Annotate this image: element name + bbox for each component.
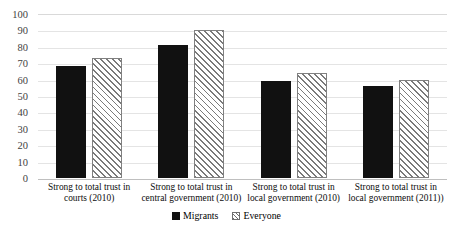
x-axis-category-label: Strong to total trust inlocal government…: [345, 182, 447, 204]
y-axis-tick-label: 50: [0, 92, 28, 102]
x-axis-label-line: Strong to total trust in: [39, 182, 139, 193]
x-axis-category-label: Strong to total trust incourts (2010): [38, 182, 140, 204]
y-axis-tick-label: 70: [0, 59, 28, 69]
bar-everyone: [92, 58, 122, 178]
legend-entry: Everyone: [232, 211, 281, 221]
bar-migrants: [261, 81, 291, 178]
bar-group: [243, 14, 345, 178]
y-axis-tick-label: 90: [0, 26, 28, 36]
legend-entry: Migrants: [172, 211, 218, 221]
x-axis-label-line: local government (2011)): [346, 193, 446, 204]
x-axis-label-line: Strong to total trust in: [346, 182, 446, 193]
x-axis-label-line: Strong to total trust in: [244, 182, 344, 193]
bar-migrants: [158, 45, 188, 178]
x-axis-labels: Strong to total trust incourts (2010)Str…: [38, 182, 447, 204]
bar-everyone: [297, 73, 327, 178]
bar-groups: [38, 14, 447, 178]
bar-group: [345, 14, 447, 178]
bar-group: [38, 14, 140, 178]
x-axis-category-label: Strong to total trust inlocal government…: [243, 182, 345, 204]
legend-label: Everyone: [243, 211, 281, 221]
legend-swatch-icon: [172, 212, 180, 220]
bar-everyone: [399, 80, 429, 178]
x-axis-label-line: central government (2010): [141, 193, 241, 204]
y-axis-tick-label: 0: [0, 174, 28, 184]
y-axis-tick-label: 20: [0, 141, 28, 151]
y-axis-tick-label: 40: [0, 108, 28, 118]
bar-group: [140, 14, 242, 178]
legend-label: Migrants: [183, 211, 218, 221]
x-axis-category-label: Strong to total trust incentral governme…: [140, 182, 242, 204]
axis-baseline: [38, 179, 447, 180]
x-axis-label-line: local government (2010): [244, 193, 344, 204]
chart-legend: MigrantsEveryone: [0, 211, 453, 221]
bar-everyone: [194, 30, 224, 178]
y-axis-tick-label: 10: [0, 158, 28, 168]
y-axis-tick-label: 30: [0, 125, 28, 135]
legend-swatch-icon: [232, 212, 240, 220]
x-axis-label-line: Strong to total trust in: [141, 182, 241, 193]
x-axis-label-line: courts (2010): [39, 193, 139, 204]
y-axis-tick-label: 80: [0, 43, 28, 53]
bar-chart: 1009080706050403020100 Strong to total t…: [0, 0, 453, 229]
y-axis-tick-label: 100: [0, 10, 28, 20]
bar-migrants: [363, 86, 393, 178]
y-axis-tick-label: 60: [0, 76, 28, 86]
bar-migrants: [56, 66, 86, 178]
